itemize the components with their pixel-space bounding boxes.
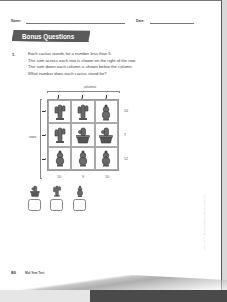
answer-box[interactable]	[28, 199, 41, 211]
round-cactus-icon	[96, 148, 116, 168]
grid-cell	[71, 147, 94, 170]
columns-bracket	[47, 91, 120, 93]
column-sum: 10	[47, 175, 71, 179]
name-field[interactable]	[26, 23, 125, 24]
row-sum: 12	[124, 157, 128, 161]
name-label: Name:	[11, 19, 21, 23]
round-cactus-icon	[50, 148, 70, 168]
bottom-dark-bar	[90, 290, 227, 302]
rows-label: rows	[29, 135, 36, 139]
column-sum: 10	[95, 175, 119, 179]
row-sum: 7	[124, 133, 126, 137]
question-line: What number does each cactus stand for?	[28, 71, 203, 78]
potted-cactus-icon	[73, 125, 93, 145]
grid-cell	[95, 100, 118, 123]
grid-cell	[95, 147, 118, 170]
answer-potted-cactus	[28, 184, 44, 214]
row-arrow-icon	[42, 134, 46, 137]
section-banner: Bonus Questions	[12, 30, 90, 42]
round-cactus-icon	[96, 102, 116, 122]
page-number: 80	[11, 270, 16, 275]
grid-cell	[95, 123, 118, 146]
round-cactus-icon	[73, 148, 93, 168]
cactus-grid	[47, 99, 119, 171]
tall-cactus-icon	[73, 102, 93, 122]
row-arrow-icon	[42, 158, 46, 161]
question-text: Each cactus stands for a number less tha…	[28, 51, 203, 77]
answer-box[interactable]	[73, 199, 86, 211]
grid-cell	[48, 147, 71, 170]
grid-cell	[71, 123, 94, 146]
tall-cactus-icon	[50, 125, 70, 145]
date-label: Date:	[136, 19, 144, 23]
question-number: 1.	[12, 52, 15, 57]
grid-cell	[48, 123, 71, 146]
date-field[interactable]	[150, 23, 194, 24]
potted-cactus-icon	[28, 184, 42, 198]
grid-cell	[48, 100, 71, 123]
grid-cell	[71, 100, 94, 123]
answer-round-cactus	[73, 184, 89, 214]
book-title: Mid-Year Test	[25, 271, 44, 275]
copyright-note: Copyright © Marshall Cavendish Education…	[203, 155, 207, 250]
row-sum: 10	[124, 109, 128, 113]
background-strip	[0, 290, 90, 302]
columns-label: columns	[70, 85, 110, 89]
round-cactus-icon	[73, 184, 87, 198]
tall-cactus-icon	[50, 102, 70, 122]
column-sum: 9	[71, 175, 95, 179]
row-arrow-icon	[42, 110, 46, 113]
potted-cactus-icon	[96, 125, 116, 145]
answer-tall-cactus	[50, 184, 66, 214]
answer-box[interactable]	[50, 199, 63, 211]
tall-cactus-icon	[50, 184, 64, 198]
